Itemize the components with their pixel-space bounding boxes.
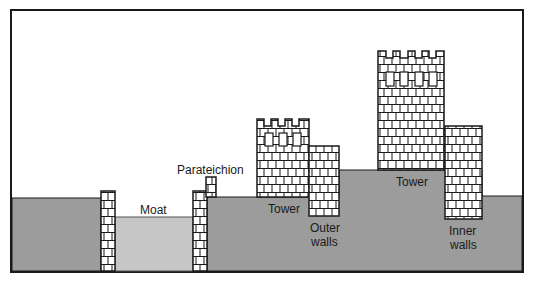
label-parateichion: Parateichion <box>177 163 244 177</box>
label-inner-walls-2: walls <box>449 238 477 252</box>
small-tower-window <box>279 133 287 146</box>
label-tower-large: Tower <box>396 175 428 189</box>
moat-water <box>115 217 193 271</box>
castle-cross-section-diagram: Moat Parateichion Tower Outer walls Towe… <box>0 0 536 285</box>
small-tower <box>257 119 309 197</box>
label-tower-small: Tower <box>268 202 300 216</box>
inner-wall <box>445 126 482 219</box>
parateichion-wall <box>206 177 216 197</box>
label-moat: Moat <box>140 203 167 217</box>
small-tower-window <box>265 133 273 146</box>
large-tower-window <box>415 72 423 86</box>
label-outer-walls-2: walls <box>310 235 338 249</box>
large-tower-window <box>400 72 408 86</box>
small-tower-window <box>293 133 301 146</box>
moat-inner-wall <box>193 191 207 271</box>
label-inner-walls-1: Inner <box>449 224 476 238</box>
ground-outer <box>12 198 101 271</box>
outer-wall <box>309 146 339 216</box>
large-tower-window <box>386 72 394 86</box>
label-outer-walls-1: Outer <box>310 221 340 235</box>
large-tower-window <box>429 72 437 86</box>
moat-outer-wall <box>101 191 115 271</box>
large-tower <box>378 51 444 170</box>
